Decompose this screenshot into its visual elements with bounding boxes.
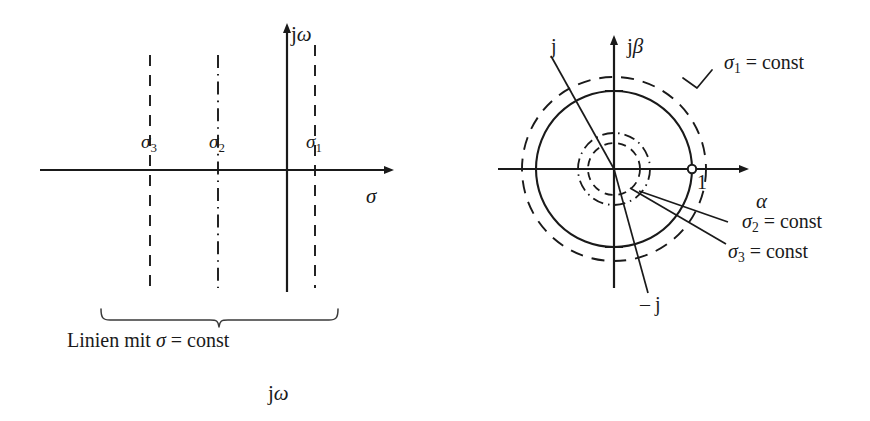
brace-caption: Linien mit σ = const (67, 330, 229, 350)
left-plot-s-plane (40, 32, 385, 327)
sigma3-line-label: σ3 (141, 132, 157, 155)
unit-point-label: 1 (697, 172, 707, 192)
unit-point-marker (688, 165, 696, 173)
left-jomega-axis-label: jω (291, 24, 312, 45)
figure-bottom-caption: jω (268, 383, 289, 404)
sigma3-curve-label: σ3 = const (728, 241, 808, 264)
leader-line-sigma1 (683, 70, 712, 88)
minus-j-text: – j (640, 293, 661, 315)
jbeta-axis-label: jβ (627, 36, 643, 57)
leader-line-sigma2 (639, 191, 728, 222)
underbrace (101, 309, 338, 327)
plus-j-label: j (551, 36, 557, 56)
brace-caption-suffix: = const (166, 329, 230, 351)
plus-j-text: j (551, 35, 557, 57)
sigma1-line-label: σ1 (306, 132, 322, 155)
brace-caption-sigma: σ (156, 329, 166, 351)
figure-root: jω σ σ3 σ2 σ1 Linien mit σ = const jω j … (0, 0, 870, 421)
sigma1-curve-label: σ1 = const (724, 52, 804, 75)
alpha-axis-label: α (756, 191, 767, 212)
minus-j-label: – j (640, 294, 661, 314)
omega-glyph: ω (297, 22, 312, 46)
brace-caption-prefix: Linien mit (67, 329, 156, 351)
left-sigma-axis-label: σ (366, 186, 376, 207)
right-plot-z-plane (498, 44, 740, 293)
unit-point-text: 1 (697, 171, 707, 193)
sigma2-curve-label: σ2 = const (742, 211, 822, 234)
sigma2-line-label: σ2 (209, 132, 225, 155)
